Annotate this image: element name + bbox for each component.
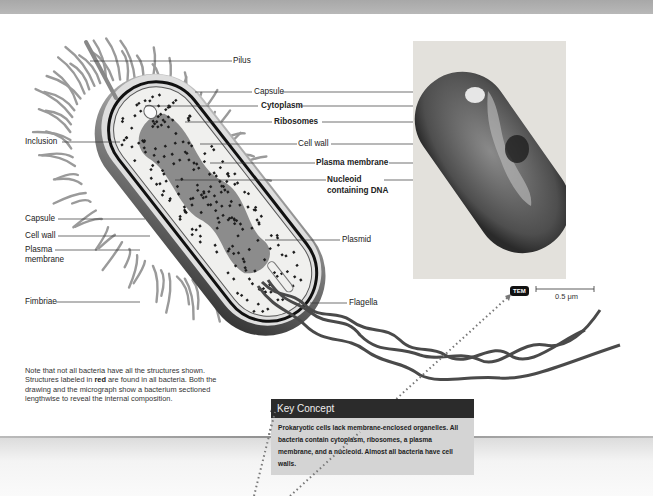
label-pilus: Pilus — [233, 56, 251, 66]
fimbria — [54, 193, 86, 204]
tem-badge: TEM — [510, 286, 529, 296]
label-inclusion: Inclusion — [25, 137, 57, 147]
tem-micrograph — [413, 41, 566, 279]
fimbria — [72, 200, 90, 203]
fimbria — [125, 249, 130, 267]
fimbria — [122, 51, 128, 80]
label-membrane-left: membrane — [25, 255, 64, 265]
fimbria — [54, 72, 77, 105]
label-plasma-left: Plasma — [25, 245, 52, 255]
label-capsule: Capsule — [254, 87, 284, 97]
key-concept-body: Prokaryotic cells lack membrane-enclosed… — [271, 418, 474, 475]
scale-bar-label: 0.5 μm — [555, 292, 578, 301]
key-concept-box: Key Concept Prokaryotic cells lack membr… — [271, 399, 474, 475]
micrograph-inclusion — [465, 87, 485, 103]
figure-note: Note that not all bacteria have all the … — [25, 366, 225, 403]
fimbria — [103, 242, 122, 270]
label-capsule-left: Capsule — [25, 214, 55, 224]
fimbria — [54, 179, 81, 184]
fimbria — [153, 266, 158, 302]
fimbria — [161, 270, 164, 296]
label-cell-wall: Cell wall — [298, 139, 328, 149]
pilus-shape — [86, 42, 116, 98]
fimbria — [106, 39, 120, 80]
label-plasma-membrane: Plasma membrane — [316, 158, 388, 168]
label-nucleoid-dna: containing DNA — [327, 186, 388, 196]
label-fimbriae: Fimbriae — [25, 297, 57, 307]
key-concept-title: Key Concept — [271, 399, 474, 418]
fimbria — [166, 274, 170, 313]
note-highlight: red — [94, 375, 106, 384]
label-cell-wall-left: Cell wall — [25, 231, 55, 241]
cell-body — [70, 50, 349, 360]
label-ribosomes: Ribosomes — [274, 117, 318, 127]
label-cytoplasm: Cytoplasm — [261, 101, 303, 111]
label-plasmid: Plasmid — [342, 235, 371, 245]
label-nucleoid: Nucleoid — [327, 175, 362, 185]
label-flagella: Flagella — [349, 298, 378, 308]
